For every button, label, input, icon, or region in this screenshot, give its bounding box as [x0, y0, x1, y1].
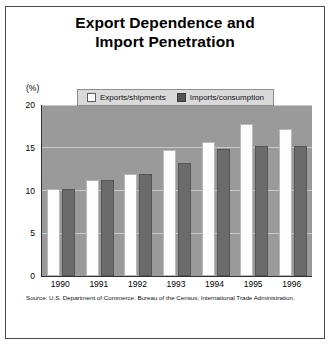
plot-area: [41, 105, 312, 277]
x-axis-label-1992: 1992: [117, 279, 157, 289]
legend-item-imports: Imports/consumption: [177, 93, 264, 102]
legend-swatch-icon: [87, 93, 96, 102]
bar-exports-1996: [279, 129, 292, 276]
legend-item-exports: Exports/shipments: [87, 93, 166, 102]
legend-label: Imports/consumption: [190, 93, 264, 102]
x-axis-label-1994: 1994: [195, 279, 235, 289]
gridline: [42, 147, 312, 148]
bar-imports-1996: [294, 146, 307, 276]
x-axis-label-1993: 1993: [156, 279, 196, 289]
bar-exports-1992: [124, 174, 137, 276]
chart-legend: Exports/shipmentsImports/consumption: [77, 89, 274, 106]
bar-exports-1991: [86, 180, 99, 276]
legend-label: Exports/shipments: [100, 93, 166, 102]
x-axis-labels: 1990199119921993199419951996: [41, 279, 311, 291]
legend-swatch-icon: [177, 93, 186, 102]
gridline: [42, 233, 312, 234]
title-line-1: Export Dependence and: [75, 14, 255, 31]
gridline: [42, 190, 312, 191]
y-axis-tick-label: 5: [13, 228, 35, 238]
bar-imports-1991: [101, 180, 114, 276]
x-axis-label-1995: 1995: [233, 279, 273, 289]
bar-imports-1994: [217, 149, 230, 276]
source-note: Source: U.S. Department of Commerce: Bur…: [26, 294, 295, 301]
y-axis-tick-label: 10: [13, 186, 35, 196]
bar-imports-1990: [62, 189, 75, 276]
x-axis-label-1991: 1991: [79, 279, 119, 289]
page-title: Export Dependence and Import Penetration: [6, 13, 324, 51]
y-axis-unit-label: (%): [26, 83, 39, 93]
bar-exports-1995: [240, 124, 253, 276]
y-axis-tick-label: 0: [13, 271, 35, 281]
bar-imports-1995: [255, 146, 268, 276]
y-axis-tick-label: 20: [13, 100, 35, 110]
bar-exports-1993: [163, 150, 176, 276]
bar-exports-1990: [47, 189, 60, 276]
x-axis-label-1990: 1990: [40, 279, 80, 289]
title-line-2: Import Penetration: [6, 32, 324, 51]
x-axis-label-1996: 1996: [272, 279, 312, 289]
chart-figure: Export Dependence and Import Penetration…: [0, 0, 331, 346]
bar-imports-1992: [139, 174, 152, 276]
bar-imports-1993: [178, 163, 191, 276]
bar-exports-1994: [202, 142, 215, 276]
y-axis-tick-label: 15: [13, 143, 35, 153]
